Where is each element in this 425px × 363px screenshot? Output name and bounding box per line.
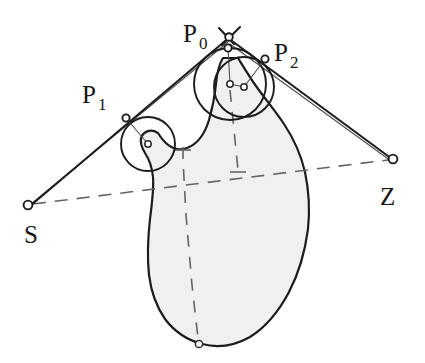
node-marker-p2[interactable] [261,55,268,62]
label-z: Z [380,183,395,210]
label-p0-subscript: 0 [199,34,208,53]
blob-shape [141,58,309,346]
node-marker-p1[interactable] [122,114,129,121]
label-p1: P 1 [82,81,107,114]
label-p2-base: P [274,39,288,66]
radius-line-p1 [126,118,148,144]
node-marker-circle-1-center[interactable] [145,141,151,147]
label-p1-subscript: 1 [98,95,107,114]
label-p2-subscript: 2 [290,53,299,72]
node-marker-circle-0-center[interactable] [227,81,233,87]
node-marker-apex[interactable] [225,33,233,41]
node-marker-z[interactable] [389,155,398,164]
diagram-svg: S Z P 0 P 1 P 2 [0,0,425,363]
label-p2: P 2 [274,39,299,72]
node-marker-circle-2-center[interactable] [241,84,247,90]
label-p0-base: P [183,20,197,47]
node-marker-s[interactable] [24,201,33,210]
figure-container: S Z P 0 P 1 P 2 [0,0,425,363]
label-p0: P 0 [183,20,208,53]
label-s: S [24,221,38,248]
node-marker-blob-bottom[interactable] [195,340,202,347]
label-p1-base: P [82,81,96,108]
node-marker-p0[interactable] [224,44,231,51]
